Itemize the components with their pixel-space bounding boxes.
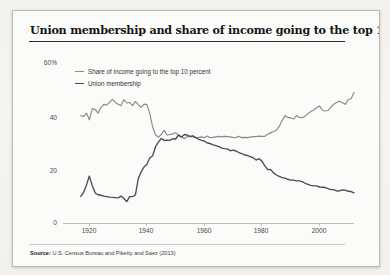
source-divider bbox=[29, 244, 345, 245]
legend-item-income-share: Share of income going to the top 10 perc… bbox=[75, 67, 211, 76]
source-note: Source: U.S. Census Bureau and Piketty a… bbox=[30, 250, 176, 256]
title-divider bbox=[29, 41, 345, 42]
x-tick-label-1920: 1920 bbox=[72, 227, 106, 234]
legend-item-union-membership: Union membership bbox=[75, 79, 211, 88]
y-tick-label-60: 60% bbox=[31, 59, 57, 66]
source-label: Source: bbox=[30, 250, 51, 256]
y-tick-label-40: 40 bbox=[31, 114, 57, 121]
legend-swatch-income-share bbox=[75, 71, 84, 73]
chart-legend: Share of income going to the top 10 perc… bbox=[75, 67, 211, 91]
legend-label-income-share: Share of income going to the top 10 perc… bbox=[88, 67, 211, 76]
x-tick-label-1960: 1960 bbox=[187, 227, 221, 234]
figure-card: Union membership and share of income goi… bbox=[12, 10, 380, 267]
x-tick-label-1940: 1940 bbox=[129, 227, 163, 234]
x-tick-1980 bbox=[261, 223, 262, 226]
figure-title: Union membership and share of income goi… bbox=[30, 23, 380, 37]
legend-swatch-union-membership bbox=[75, 83, 84, 85]
x-tick-1960 bbox=[204, 223, 205, 226]
y-tick-label-20: 20 bbox=[31, 167, 57, 174]
x-axis-line bbox=[63, 223, 354, 224]
line-income-share bbox=[81, 93, 354, 139]
y-tick-label-0: 0 bbox=[31, 219, 57, 226]
x-tick-label-1980: 1980 bbox=[244, 227, 278, 234]
x-tick-2000 bbox=[319, 223, 320, 226]
x-tick-label-2000: 2000 bbox=[302, 227, 336, 234]
x-tick-1940 bbox=[146, 223, 147, 226]
legend-label-union-membership: Union membership bbox=[88, 79, 141, 88]
source-text: U.S. Census Bureau and Piketty and Saez … bbox=[52, 250, 175, 256]
line-union-membership bbox=[81, 134, 354, 201]
x-tick-1920 bbox=[89, 223, 90, 226]
